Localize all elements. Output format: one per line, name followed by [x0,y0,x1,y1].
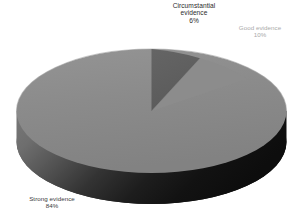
slice-label-line-2: evidence [141,9,247,16]
slice-value-strong-evidence: 84% [6,203,98,210]
slice-label-good-evidence: Good evidence 10% [222,25,298,39]
pie-top-surface [17,49,287,173]
slice-label-circumstantial-evidence: Circumstantial evidence 6% [141,2,247,24]
slice-value-circumstantial-evidence: 6% [141,17,247,24]
pie-chart-figure: Circumstantial evidence 6% Good evidence… [0,0,303,219]
slice-value-good-evidence: 10% [222,32,298,39]
slice-label-strong-evidence: Strong evidence 84% [6,196,98,210]
slice-label-line-1: Circumstantial [141,2,247,9]
